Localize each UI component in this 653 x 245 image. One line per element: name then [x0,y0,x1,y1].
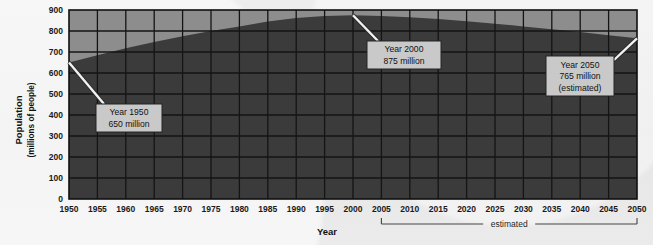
y-tick-label: 100 [49,173,63,183]
x-tick-label: 2015 [429,204,448,214]
x-tick-label: 1975 [202,204,221,214]
population-area-chart: 0100200300400500600700800900 Population … [0,0,653,245]
y-tick-label: 700 [49,47,63,57]
callout-text-line: 765 million [559,71,600,81]
x-axis-title: Year [317,226,337,237]
y-tick-label: 500 [49,89,63,99]
y-tick-label: 300 [49,131,63,141]
x-tick-label: 1990 [287,204,306,214]
y-axis-tick-labels: 0100200300400500600700800900 [49,5,63,204]
estimated-bracket: estimated [381,218,637,229]
x-axis-tick-labels: 1950195519601965197019751980198519901995… [60,204,647,214]
callout-text-line: (estimated) [559,83,602,93]
x-tick-label: 1995 [315,204,334,214]
x-tick-label: 2000 [344,204,363,214]
x-tick-label: 2035 [542,204,561,214]
y-axis-title-group: Population (millions of people) [13,82,36,157]
callout-text-line: 650 million [108,119,149,129]
y-tick-label: 900 [49,5,63,15]
y-tick-label: 0 [58,194,63,204]
x-tick-label: 1955 [88,204,107,214]
x-tick-label: 2045 [599,204,618,214]
callout-text-line: 875 million [383,56,424,66]
x-tick-label: 2010 [400,204,419,214]
x-tick-label: 2025 [486,204,505,214]
bracket-label: estimated [491,219,528,229]
x-tick-label: 1985 [258,204,277,214]
callout-text-line: Year 1950 [110,107,149,117]
y-tick-label: 800 [49,26,63,36]
x-tick-label: 1980 [230,204,249,214]
y-tick-label: 400 [49,110,63,120]
x-tick-label: 2040 [571,204,590,214]
x-tick-label: 1950 [60,204,79,214]
x-tick-label: 2020 [457,204,476,214]
y-tick-label: 200 [49,152,63,162]
x-tick-label: 2005 [372,204,391,214]
x-tick-label: 2030 [514,204,533,214]
callout-text-line: Year 2000 [385,44,424,54]
y-axis-title: Population [13,95,24,144]
x-tick-label: 2050 [628,204,647,214]
x-tick-label: 1965 [145,204,164,214]
x-tick-label: 1960 [116,204,135,214]
callout-text-line: Year 2050 [561,60,600,70]
y-axis-subtitle: (millions of people) [27,82,36,157]
x-tick-label: 1970 [173,204,192,214]
y-tick-label: 600 [49,68,63,78]
